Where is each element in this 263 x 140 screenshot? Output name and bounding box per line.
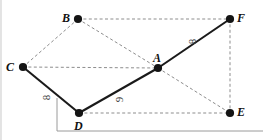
edge-b-a bbox=[78, 19, 158, 68]
vertex-dot-e[interactable] bbox=[226, 109, 234, 117]
edge-a-e bbox=[158, 68, 230, 113]
vertex-label-c: C bbox=[6, 61, 14, 73]
vertex-dot-d[interactable] bbox=[75, 109, 83, 117]
edge-c-d bbox=[23, 67, 79, 113]
edge-d-a bbox=[79, 68, 158, 113]
edge-weight-a-f: 8 bbox=[187, 39, 198, 45]
edge-weight-c-d: 8 bbox=[41, 95, 52, 101]
solid-edges-group bbox=[23, 19, 230, 113]
vertex-label-b: B bbox=[62, 12, 70, 24]
vertex-dot-b[interactable] bbox=[74, 15, 82, 23]
vertex-dots-group bbox=[19, 15, 234, 117]
vertex-label-a: A bbox=[153, 52, 161, 64]
vertex-label-d: D bbox=[74, 120, 83, 132]
vertex-dot-f[interactable] bbox=[226, 15, 234, 23]
annotation-lines-group bbox=[1, 0, 263, 140]
vertex-dot-a[interactable] bbox=[154, 64, 162, 72]
vertex-label-f: F bbox=[237, 12, 245, 24]
vertex-dot-c[interactable] bbox=[19, 63, 27, 71]
edge-c-a bbox=[23, 67, 158, 68]
dashed-edges-group bbox=[23, 19, 230, 113]
edge-b-c bbox=[23, 19, 78, 67]
figure-canvas: ABCDEF 898 bbox=[0, 0, 263, 140]
edge-weight-d-a: 9 bbox=[114, 97, 125, 103]
vertex-label-e: E bbox=[237, 106, 245, 118]
graph-svg bbox=[0, 0, 263, 140]
